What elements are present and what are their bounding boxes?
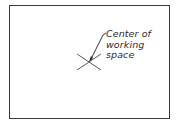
- diagram-drawing: [0, 0, 184, 131]
- annotation-line-1: Center of: [106, 29, 151, 40]
- annotation-line-3: space: [106, 50, 151, 61]
- leader-line: [90, 33, 106, 61]
- annotation-label: Center of working space: [106, 29, 151, 61]
